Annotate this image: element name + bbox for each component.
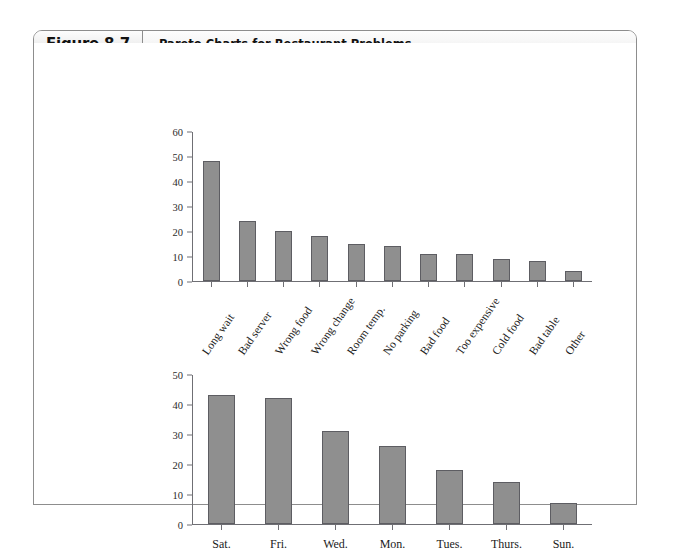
bar-slot — [307, 375, 364, 524]
bar — [322, 431, 349, 524]
bar — [565, 271, 582, 281]
x-label-slot: Fri. — [250, 534, 307, 552]
x-tick-mark — [278, 525, 279, 530]
x-label-slot: Tues. — [421, 534, 478, 552]
y-tick: 30 — [173, 430, 193, 441]
x-tick-mark — [335, 525, 336, 530]
chart-1-x-ticks — [193, 282, 592, 287]
chart-2-bars — [193, 375, 592, 524]
x-axis-label-text: Other — [562, 329, 587, 357]
bar-slot — [535, 375, 592, 524]
x-tick-slot — [483, 282, 519, 287]
x-label-slot: Long wait — [193, 288, 229, 358]
bar — [379, 446, 406, 524]
x-tick-mark — [573, 282, 574, 287]
x-tick-mark — [506, 525, 507, 530]
y-tick-label: 30 — [173, 430, 188, 441]
x-tick-slot — [364, 525, 421, 530]
bar-slot — [478, 375, 535, 524]
x-tick-slot — [193, 525, 250, 530]
x-axis-label-text: Sat. — [212, 537, 230, 551]
x-tick-slot — [478, 525, 535, 530]
y-tick-label: 20 — [173, 227, 188, 238]
y-tick-label: 60 — [173, 127, 188, 138]
figure-body-panel: 0102030405060 Long waitBad serverWrong f… — [33, 43, 637, 505]
x-tick-slot — [411, 282, 447, 287]
chart-2-x-ticks — [193, 525, 592, 530]
y-tick-label: 40 — [173, 177, 188, 188]
y-tick: 0 — [178, 520, 192, 531]
x-tick-mark — [392, 282, 393, 287]
x-label-slot: Cold food — [483, 288, 519, 358]
x-tick-slot — [535, 525, 592, 530]
x-tick-slot — [193, 282, 229, 287]
x-tick-mark — [464, 282, 465, 287]
x-label-slot: Sat. — [193, 534, 250, 552]
bar-slot — [374, 132, 410, 281]
bar — [529, 261, 546, 281]
x-tick-mark — [449, 525, 450, 530]
x-tick-mark — [501, 282, 502, 287]
x-tick-mark — [563, 525, 564, 530]
chart-2-plot-area: 01020304050 Sat.Fri.Wed.Mon.Tues.Thurs.S… — [192, 375, 592, 525]
x-tick-slot — [374, 282, 410, 287]
y-tick-mark — [187, 435, 192, 436]
y-tick-mark — [187, 282, 192, 283]
x-label-slot: No parking — [374, 288, 410, 358]
y-tick: 0 — [178, 277, 192, 288]
y-tick-mark — [187, 375, 192, 376]
y-tick-label: 40 — [173, 400, 188, 411]
x-tick-mark — [221, 525, 222, 530]
chart-2-x-labels: Sat.Fri.Wed.Mon.Tues.Thurs.Sun. — [193, 534, 592, 552]
bar — [550, 503, 577, 524]
y-tick-label: 30 — [173, 202, 188, 213]
x-tick-slot — [266, 282, 302, 287]
x-tick-slot — [447, 282, 483, 287]
bar-slot — [447, 132, 483, 281]
x-axis-label-text: Thurs. — [491, 537, 522, 551]
y-tick-label: 10 — [173, 252, 188, 263]
bar — [493, 482, 520, 524]
y-tick-mark — [187, 525, 192, 526]
x-tick-mark — [211, 282, 212, 287]
x-axis-label-text: Mon. — [380, 537, 406, 551]
pareto-chart-days: 01020304050 Sat.Fri.Wed.Mon.Tues.Thurs.S… — [144, 361, 614, 541]
x-label-slot: Bad server — [229, 288, 265, 358]
x-axis-label-text: Fri. — [270, 537, 287, 551]
x-tick-mark — [392, 525, 393, 530]
y-tick: 10 — [173, 252, 193, 263]
chart-1-bars — [193, 132, 592, 281]
bar-slot — [411, 132, 447, 281]
y-tick: 50 — [173, 370, 193, 381]
bar-slot — [229, 132, 265, 281]
bar — [384, 246, 401, 281]
x-axis-label-text: Sun. — [553, 537, 575, 551]
x-axis-label-text: Wed. — [323, 537, 348, 551]
bar — [208, 395, 235, 524]
bar-slot — [556, 132, 592, 281]
x-label-slot: Sun. — [535, 534, 592, 552]
bar — [265, 398, 292, 524]
bar-slot — [193, 375, 250, 524]
y-tick: 10 — [173, 490, 193, 501]
x-tick-slot — [338, 282, 374, 287]
bar-slot — [421, 375, 478, 524]
x-tick-mark — [319, 282, 320, 287]
x-tick-slot — [307, 525, 364, 530]
y-tick-mark — [187, 405, 192, 406]
y-tick: 30 — [173, 202, 193, 213]
bar-slot — [519, 132, 555, 281]
bar — [275, 231, 292, 281]
x-tick-slot — [421, 525, 478, 530]
bar-slot — [338, 132, 374, 281]
y-tick-mark — [187, 495, 192, 496]
y-tick-label: 50 — [173, 152, 188, 163]
bar — [239, 221, 256, 281]
x-axis-label: Other — [559, 326, 589, 358]
y-tick: 20 — [173, 460, 193, 471]
bar — [456, 254, 473, 282]
y-tick-label: 50 — [173, 370, 188, 381]
y-tick-mark — [187, 157, 192, 158]
x-label-slot: Room temp. — [338, 288, 374, 358]
x-label-slot: Wed. — [307, 534, 364, 552]
